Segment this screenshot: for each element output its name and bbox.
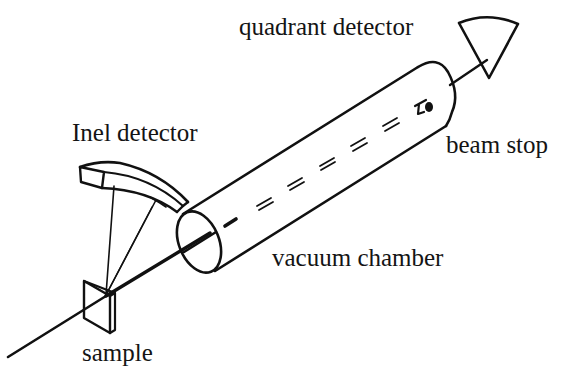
- label-beam-stop: beam stop: [446, 132, 548, 157]
- quadrant-detector-shape: [459, 17, 518, 78]
- label-vacuum-chamber: vacuum chamber: [272, 245, 443, 270]
- inel-detector-shape: [80, 162, 188, 212]
- label-inel-detector: Inel detector: [72, 120, 198, 145]
- label-sample: sample: [82, 340, 153, 365]
- label-quadrant-detector: quadrant detector: [239, 14, 413, 39]
- beam-stop-shape: [415, 100, 433, 114]
- scattered-rays: [106, 186, 156, 295]
- diagram-canvas: quadrant detector Inel detector beam sto…: [0, 0, 574, 371]
- diagram-drawing: [0, 0, 574, 371]
